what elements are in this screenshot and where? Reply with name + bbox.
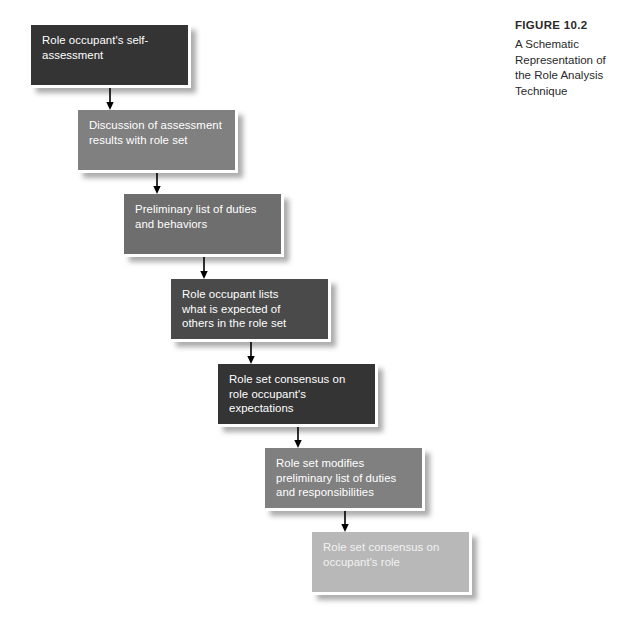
flow-step-2: Discussion of assessment results with ro… bbox=[78, 110, 238, 173]
flow-step-1: Role occupant's self- assessment bbox=[31, 25, 191, 88]
flow-step-6-label: Role set modifies preliminary list of du… bbox=[265, 448, 422, 500]
flow-step-7: Role set consensus on occupant's role bbox=[312, 532, 472, 595]
arrow-step-4-to-5 bbox=[245, 342, 257, 365]
figure-root: FIGURE 10.2 A Schematic Representation o… bbox=[0, 0, 618, 632]
flow-step-5: Role set consensus on role occupant's ex… bbox=[218, 364, 378, 427]
flow-step-2-label: Discussion of assessment results with ro… bbox=[78, 110, 235, 147]
figure-caption-text: A Schematic Representation of the Role A… bbox=[515, 37, 615, 99]
arrow-step-6-to-7 bbox=[339, 511, 351, 533]
arrow-step-3-to-4 bbox=[198, 257, 210, 280]
flow-step-3: Preliminary list of duties and behaviors bbox=[124, 194, 284, 257]
arrow-step-1-to-2 bbox=[104, 88, 116, 111]
arrow-step-2-to-3 bbox=[151, 173, 163, 195]
figure-caption: FIGURE 10.2 A Schematic Representation o… bbox=[515, 18, 615, 99]
flow-step-4-label: Role occupant lists what is expected of … bbox=[171, 279, 328, 331]
flow-step-3-label: Preliminary list of duties and behaviors bbox=[124, 194, 281, 231]
flow-step-1-label: Role occupant's self- assessment bbox=[31, 25, 188, 62]
flow-step-5-label: Role set consensus on role occupant's ex… bbox=[218, 364, 375, 416]
figure-number-label: FIGURE 10.2 bbox=[515, 18, 615, 33]
arrow-step-5-to-6 bbox=[292, 427, 304, 449]
flow-step-7-label: Role set consensus on occupant's role bbox=[312, 532, 469, 569]
flow-step-6: Role set modifies preliminary list of du… bbox=[265, 448, 425, 511]
flow-step-4: Role occupant lists what is expected of … bbox=[171, 279, 331, 342]
